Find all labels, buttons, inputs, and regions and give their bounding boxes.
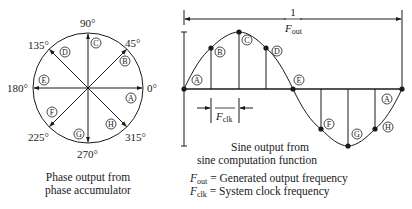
angle-label-225: 225° xyxy=(28,131,49,143)
phase-point-B: B xyxy=(120,56,130,66)
phase-caption-line2: phase accumulator xyxy=(45,184,131,197)
svg-text:H: H xyxy=(108,120,114,129)
fclk-label: Fclk xyxy=(215,110,233,124)
sine-point-F: F xyxy=(324,119,334,129)
sine-point-E: E xyxy=(294,75,304,85)
phase-point-A: A xyxy=(126,93,136,103)
sine-point-H: H xyxy=(383,122,393,132)
period-denominator: Fout xyxy=(284,22,303,36)
svg-text:G: G xyxy=(354,130,360,139)
sine-point-D: D xyxy=(272,46,282,56)
sine-point-B: B xyxy=(215,47,225,57)
dds-diagram: 0° 45° 90° 135° 180° 225° 270° 315° A B … xyxy=(0,0,412,209)
spoke-45-arrow xyxy=(88,50,127,89)
sine-point-C: C xyxy=(242,35,252,45)
angle-label-135: 135° xyxy=(28,39,49,51)
angle-label-270: 270° xyxy=(77,148,98,160)
phase-caption-line1: Phase output from xyxy=(46,171,130,184)
angle-label-0: 0° xyxy=(147,82,157,94)
svg-text:D: D xyxy=(62,48,68,57)
angle-label-90: 90° xyxy=(80,17,95,29)
svg-text:E: E xyxy=(297,76,302,85)
sine-point-A: A xyxy=(192,75,202,85)
svg-text:A: A xyxy=(384,95,390,104)
legend-fout: Fout = Generated output frequency xyxy=(189,172,348,186)
phase-point-F: F xyxy=(47,107,57,117)
svg-text:H: H xyxy=(385,123,391,132)
phase-point-E: E xyxy=(39,75,49,85)
svg-text:B: B xyxy=(122,57,127,66)
sine-wave-panel: 1 Fout xyxy=(181,6,405,199)
svg-text:C: C xyxy=(93,39,98,48)
phase-point-C: C xyxy=(91,38,101,48)
phase-point-G: G xyxy=(74,129,84,139)
svg-text:A: A xyxy=(128,94,134,103)
period-numerator: 1 xyxy=(290,6,296,18)
sine-point-A-repeat: A xyxy=(382,94,392,104)
phase-spokes xyxy=(34,34,142,142)
svg-text:F: F xyxy=(327,120,332,129)
svg-text:E: E xyxy=(42,76,47,85)
sine-caption-line2: sine computation function xyxy=(197,154,317,167)
svg-text:D: D xyxy=(274,47,280,56)
angle-label-45: 45° xyxy=(125,37,140,49)
spoke-225-arrow xyxy=(50,88,89,127)
phase-wheel: 0° 45° 90° 135° 180° 225° 270° 315° A B … xyxy=(7,17,157,197)
legend-fclk: Fclk = System clock frequency xyxy=(189,185,330,199)
phase-point-D: D xyxy=(60,47,70,57)
sine-caption-line1: Sine output from xyxy=(231,141,309,154)
sine-point-G: G xyxy=(352,129,362,139)
phase-point-H: H xyxy=(106,119,116,129)
svg-text:G: G xyxy=(76,130,82,139)
angle-label-180: 180° xyxy=(7,82,28,94)
svg-text:A: A xyxy=(194,76,200,85)
svg-text:C: C xyxy=(244,36,249,45)
fclk-interval-marker: Fclk xyxy=(197,98,253,124)
angle-label-315: 315° xyxy=(125,131,146,143)
svg-text:B: B xyxy=(217,48,222,57)
svg-text:F: F xyxy=(50,108,55,117)
